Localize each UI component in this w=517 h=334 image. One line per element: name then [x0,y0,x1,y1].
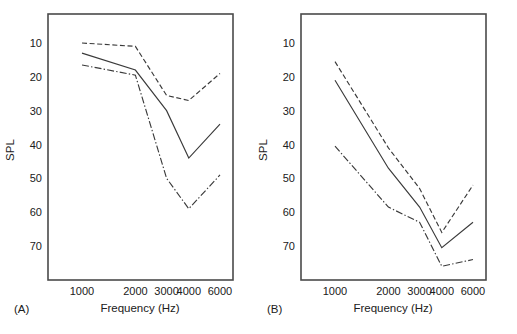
y-tick-label: 40 [30,139,42,151]
y-tick-label: 30 [283,105,295,117]
x-tick-label: 1000 [323,285,347,297]
x-tick-label: 4000 [430,285,454,297]
y-tick-labels: 10203040506070 [283,37,295,252]
panel-tag: (B) [267,303,283,315]
x-tick-label: 6000 [461,285,485,297]
x-axis-title: Frequency (Hz) [100,302,179,314]
y-tick-label: 30 [30,105,42,117]
panel-a-plot: 10203040506070 10002000300040006000 SPL … [0,0,258,334]
y-axis-title: SPL [4,139,16,161]
y-tick-label: 50 [30,172,42,184]
panel-tag: (A) [14,303,30,315]
y-tick-label: 60 [283,206,295,218]
y-tick-label: 50 [283,172,295,184]
x-tick-labels: 10002000300040006000 [323,285,485,297]
y-tick-label: 10 [30,37,42,49]
y-tick-label: 60 [30,206,42,218]
panel-a: 10203040506070 10002000300040006000 SPL … [0,0,258,334]
y-tick-label: 10 [283,37,295,49]
y-axis-title: SPL [257,139,269,161]
panel-b-plot: 10203040506070 10002000300040006000 SPL … [253,0,511,334]
x-tick-label: 4000 [177,285,201,297]
x-tick-label: 1000 [70,285,94,297]
x-tick-label: 3000 [154,285,178,297]
figure-container: 10203040506070 10002000300040006000 SPL … [0,0,517,334]
y-tick-label: 70 [283,240,295,252]
y-tick-label: 20 [30,71,42,83]
x-tick-label: 6000 [208,285,232,297]
y-tick-label: 70 [30,240,42,252]
x-axis-title: Frequency (Hz) [353,302,432,314]
y-tick-labels: 10203040506070 [30,37,42,252]
x-tick-label: 2000 [123,285,147,297]
y-tick-label: 20 [283,71,295,83]
y-tick-label: 40 [283,139,295,151]
x-tick-labels: 10002000300040006000 [70,285,232,297]
x-tick-label: 2000 [376,285,400,297]
plot-frame [301,14,486,280]
panel-b: 10203040506070 10002000300040006000 SPL … [253,0,511,334]
x-tick-label: 3000 [407,285,431,297]
